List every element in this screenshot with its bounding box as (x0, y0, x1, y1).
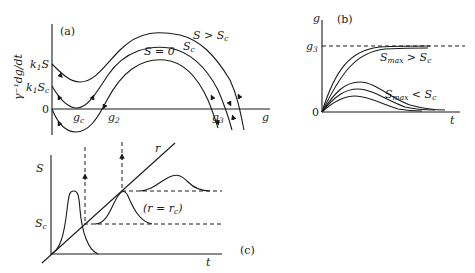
x-point-g2: g2 (108, 111, 120, 125)
panel-a-tag: (a) (60, 25, 75, 38)
panel-b: g (b) g3 0 t Smax > Sc Smax < Sc (306, 12, 465, 127)
asymptote-label-g3: g3 (306, 40, 318, 54)
x-point-gc: gc (73, 111, 85, 125)
flow-arrow (233, 117, 234, 120)
panel-c: S Sc r (r = rc) t (c) (35, 142, 255, 269)
panel-b-origin: 0 (312, 106, 319, 119)
line-label-r: r (155, 142, 161, 155)
pulse-small (140, 175, 210, 191)
panel-a: (a) γ⁻¹dg/dt k1S k1Sc 0 gc g2 g3 g S > S… (12, 24, 270, 135)
flow-arrow (212, 97, 213, 99)
flow-arrow (60, 75, 61, 76)
curve-label-s-zero: S = 0 (144, 45, 175, 58)
pulse-large (51, 191, 98, 254)
figure-canvas: (a) γ⁻¹dg/dt k1S k1Sc 0 gc g2 g3 g S > S… (0, 0, 475, 273)
y-tick-zero: 0 (42, 103, 49, 116)
flow-arrow (229, 102, 230, 104)
threshold-label-sc: Sc (35, 217, 48, 231)
panel-b-tag: (b) (337, 13, 353, 26)
annotation-r-eq-rc: (r = rc) (143, 202, 183, 216)
x-point-g3: g3 (212, 111, 224, 125)
panel-c-tag: (c) (240, 244, 255, 257)
curve-label-sc: Sc (183, 40, 196, 54)
y-tick-k1s: k1S (30, 58, 49, 72)
label-smax-gt-sc: Smax > Sc (380, 51, 432, 65)
curve-label-s-gt-sc: S > Sc (193, 29, 229, 43)
y-tick-k1sc: k1Sc (26, 81, 50, 95)
panel-a-y-label: γ⁻¹dg/dt (12, 53, 25, 100)
panel-c-y-label: S (36, 162, 44, 175)
panel-b-x-label: t (450, 114, 455, 127)
panel-b-y-label: g (313, 12, 320, 25)
panel-a-x-label: g (262, 111, 269, 124)
flow-arrow (239, 96, 240, 98)
panel-c-x-label: t (206, 256, 211, 269)
label-smax-lt-sc: Smax < Sc (385, 88, 437, 102)
